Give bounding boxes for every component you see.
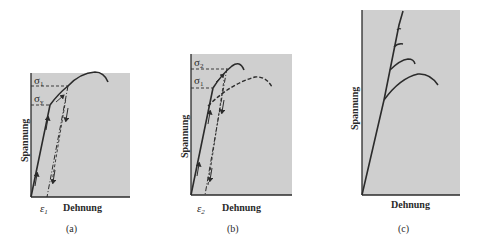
xlabel-b: Dehnung [222,202,261,213]
ylabel-a: Spannung [19,119,30,162]
panel-a-background [31,73,130,197]
caption-c: (c) [398,223,409,235]
panel-c: Spannung Dehnung (c) [349,10,460,235]
panel-b: σ2 σ1 Spannung ε2 Dehnung (b) [179,54,292,235]
ylabel-b: Spannung [179,115,190,158]
strain-label-a: ε1 [40,202,48,216]
ylabel-c: Spannung [349,87,360,130]
panel-a: σ1 σy Spannung ε1 Dehnung (a) [19,72,130,235]
stress-strain-diagrams: σ1 σy Spannung ε1 Dehnung (a) σ2 σ1 Span… [0,0,479,247]
caption-b: (b) [227,223,239,235]
xlabel-a: Dehnung [63,202,102,213]
caption-a: (a) [66,223,77,235]
xlabel-c: Dehnung [391,199,430,210]
panel-c-background [362,10,460,195]
strain-label-b: ε2 [197,202,205,216]
